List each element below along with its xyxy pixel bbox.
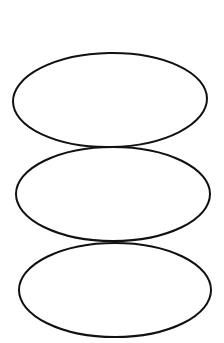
- top-ellipse: [12, 51, 208, 148]
- middle-ellipse: [16, 147, 210, 241]
- diagram-canvas: [0, 0, 224, 343]
- ellipse-stack-diagram: [0, 0, 224, 343]
- bottom-ellipse: [19, 243, 211, 337]
